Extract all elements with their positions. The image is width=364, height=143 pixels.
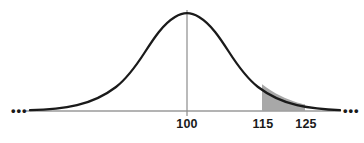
- tick-label-100: 100: [176, 118, 197, 131]
- axis-right-ellipsis: •••: [343, 104, 360, 117]
- axis-left-ellipsis: •••: [11, 104, 28, 117]
- tick-label-115: 115: [253, 118, 274, 131]
- bell-curve-path: [30, 13, 340, 110]
- normal-distribution-chart: ••• ••• 100 115 125: [0, 0, 364, 143]
- tick-label-125: 125: [295, 118, 316, 131]
